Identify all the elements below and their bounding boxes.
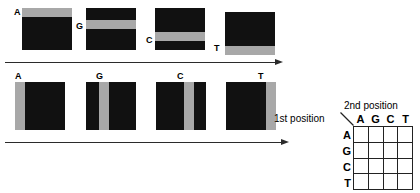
table-cell[interactable]: [354, 143, 369, 159]
row2-band-g: [99, 82, 109, 130]
row2-block-label-c: C: [177, 72, 184, 81]
row2-block-label-t: T: [258, 72, 264, 81]
table-cell[interactable]: [369, 174, 384, 190]
table-row-header-g: G: [339, 146, 351, 157]
row1-block-label-a: A: [14, 8, 21, 17]
row1-block-label-t: T: [214, 44, 220, 53]
row1-band-a: [22, 8, 72, 17]
row1-band-g: [86, 20, 136, 29]
row1-block-a: [22, 8, 72, 50]
table-col-header-t: T: [398, 114, 413, 125]
table-cell[interactable]: [384, 127, 399, 143]
table-cell[interactable]: [398, 174, 413, 190]
row1-band-t: [225, 46, 275, 55]
second-position-label: 2nd position: [344, 101, 398, 111]
table-cell[interactable]: [398, 127, 413, 143]
row1-block-label-c: C: [146, 36, 153, 45]
row2-block-label-a: A: [15, 72, 22, 81]
genetic-code-figure: A G C T A G C T 2nd position 1st positio…: [0, 0, 420, 193]
row1-block-c: [155, 8, 205, 50]
codon-table[interactable]: [353, 126, 413, 190]
row2-band-c: [184, 82, 194, 130]
first-position-label: 1st position: [274, 114, 325, 124]
row1-axis-arrow-line: [5, 62, 277, 63]
table-cell[interactable]: [384, 174, 399, 190]
row1-block-g: [86, 8, 136, 50]
table-cell[interactable]: [384, 143, 399, 159]
row2-axis-arrow-line: [5, 142, 283, 143]
table-col-header-a: A: [353, 114, 368, 125]
row2-axis-arrow-head: [281, 139, 289, 145]
table-row-header-t: T: [339, 178, 351, 189]
row2-band-a: [15, 82, 25, 130]
row1-band-c: [155, 32, 205, 41]
row1-axis-arrow-head: [275, 59, 283, 65]
row2-block-a: [15, 82, 65, 130]
row1-block-label-g: G: [76, 22, 83, 31]
table-cell[interactable]: [354, 174, 369, 190]
table-col-header-g: G: [368, 114, 383, 125]
table-row-header-a: A: [339, 130, 351, 141]
table-cell[interactable]: [398, 143, 413, 159]
table-cell[interactable]: [369, 159, 384, 175]
row2-block-label-g: G: [96, 72, 103, 81]
row2-block-c: [156, 82, 206, 130]
row2-block-g: [86, 82, 136, 130]
row2-block-t: [226, 82, 276, 130]
row1-block-t: [225, 12, 275, 55]
table-col-header-c: C: [383, 114, 398, 125]
axis-divider-slash-icon: [340, 112, 354, 126]
table-cell[interactable]: [384, 159, 399, 175]
table-row-header-c: C: [339, 162, 351, 173]
table-cell[interactable]: [354, 159, 369, 175]
table-cell[interactable]: [369, 127, 384, 143]
table-cell[interactable]: [369, 143, 384, 159]
table-cell[interactable]: [354, 127, 369, 143]
table-cell[interactable]: [398, 159, 413, 175]
